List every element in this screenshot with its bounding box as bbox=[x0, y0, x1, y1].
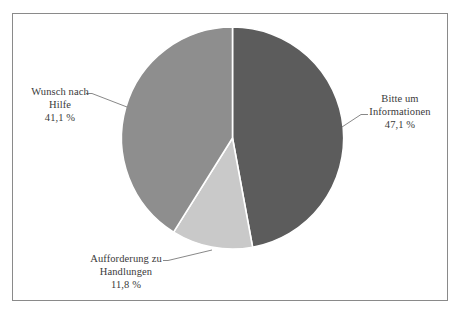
label-line2: Hilfe bbox=[24, 98, 96, 111]
label-wunsch-nach-hilfe: Wunsch nach Hilfe 41,1 % bbox=[24, 85, 96, 124]
label-value: 47,1 % bbox=[360, 118, 440, 131]
label-line2: Handlungen bbox=[80, 265, 172, 278]
label-bitte-um-informationen: Bitte um Informationen 47,1 % bbox=[360, 92, 440, 131]
label-value: 11,8 % bbox=[80, 278, 172, 291]
label-value: 41,1 % bbox=[24, 111, 96, 124]
label-line1: Bitte um bbox=[360, 92, 440, 105]
label-line2: Informationen bbox=[360, 105, 440, 118]
label-line1: Aufforderung zu bbox=[80, 252, 172, 265]
label-line1: Wunsch nach bbox=[24, 85, 96, 98]
pie-chart bbox=[0, 0, 460, 314]
label-aufforderung-zu-handlungen: Aufforderung zu Handlungen 11,8 % bbox=[80, 252, 172, 291]
pie-slice-bitte-um-informationen bbox=[233, 27, 344, 247]
